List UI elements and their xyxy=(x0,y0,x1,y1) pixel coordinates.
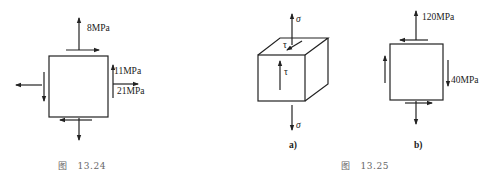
label-tau-front: τ xyxy=(284,68,288,78)
label-sigma-top: σ xyxy=(296,15,301,25)
caption-prefix: 图 xyxy=(341,161,351,171)
caption-13-24: 图 13.24 xyxy=(58,159,106,172)
sublabel-a: a) xyxy=(289,140,297,150)
label-sigma-bottom: σ xyxy=(296,121,301,131)
caption-13-25: 图 13.25 xyxy=(341,159,389,172)
sublabel-b: b) xyxy=(414,140,422,150)
caption-prefix: 图 xyxy=(58,161,68,171)
caption-number: 13.24 xyxy=(78,161,106,171)
caption-number: 13.25 xyxy=(361,161,389,171)
label-21mpa: 21MPa xyxy=(117,87,144,97)
fig-13-25a-cube xyxy=(258,14,328,130)
label-8mpa: 8MPa xyxy=(87,24,110,34)
label-11mpa: 11MPa xyxy=(114,67,141,77)
label-40mpa: 40MPa xyxy=(451,76,478,86)
label-120mpa: 120MPa xyxy=(422,13,454,23)
label-tau-top: τ xyxy=(283,41,287,51)
fig-13-24-element xyxy=(16,18,138,140)
diagram-canvas xyxy=(0,0,491,184)
fig-13-25b-element xyxy=(385,11,448,124)
